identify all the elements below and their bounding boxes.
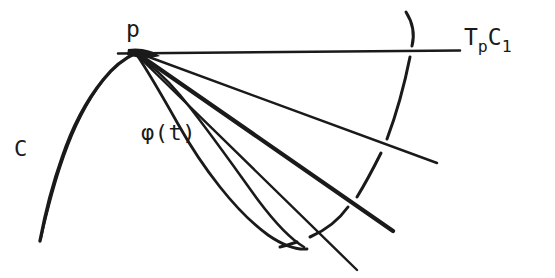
curve-C-path: [40, 53, 136, 241]
tangent-cone-subscript-p: p: [478, 37, 488, 56]
arc-fragment-lower: [310, 207, 348, 237]
arc-fragment-upper: [387, 57, 410, 139]
arc-fragment-middle: [357, 153, 381, 197]
tangent-cone-C: C: [488, 24, 502, 50]
label-point-p: p: [126, 18, 140, 41]
label-curve-c: C: [14, 138, 27, 160]
tangent-line-path: [118, 51, 460, 54]
secant-ray-1: [138, 53, 437, 163]
tangent-cone-T: T: [464, 24, 478, 50]
tangent-cone-subscript-1: 1: [502, 37, 512, 56]
figure-canvas: p C φ(t) TpC1: [0, 0, 555, 278]
curve-C-path-overstroke: [41, 79, 104, 238]
arc-fragment-top: [406, 12, 413, 46]
label-tangent-cone: TpC1: [464, 26, 512, 56]
secant-ray-3: [137, 55, 357, 270]
label-phi-of-t: φ(t): [141, 122, 196, 144]
